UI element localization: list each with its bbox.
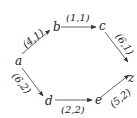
- directed-graph: a b c z d e (4,1) (1,1) (6,1) (6,2) (2,2…: [0, 0, 137, 118]
- edge-label-c-z: (6,1): [113, 31, 136, 57]
- edge-label-d-e: (2,2): [61, 104, 85, 115]
- node-z: z: [127, 71, 135, 85]
- edge-label-e-z: (5,2): [108, 86, 134, 109]
- node-e: e: [95, 93, 102, 107]
- edge-label-a-b: (4,1): [20, 27, 46, 50]
- node-a: a: [15, 54, 22, 68]
- edge-label-a-d: (6,2): [10, 70, 33, 96]
- node-c: c: [99, 19, 106, 33]
- edge-label-b-c: (1,1): [66, 12, 90, 23]
- node-b: b: [53, 20, 61, 34]
- node-d: d: [45, 94, 53, 108]
